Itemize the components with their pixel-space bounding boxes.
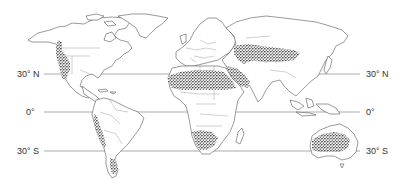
north-america: [28, 14, 168, 102]
label-equator-left: 0°: [26, 107, 35, 117]
world-map: [0, 0, 407, 193]
south-america: [92, 98, 144, 178]
label-30n-right: 30° N: [366, 69, 389, 79]
asia: [222, 16, 348, 116]
australia: [310, 124, 358, 168]
label-equator-right: 0°: [366, 107, 375, 117]
africa: [168, 66, 244, 154]
label-30s-right: 30° S: [366, 146, 388, 156]
label-30n-left: 30° N: [17, 69, 40, 79]
label-30s-left: 30° S: [17, 146, 39, 156]
